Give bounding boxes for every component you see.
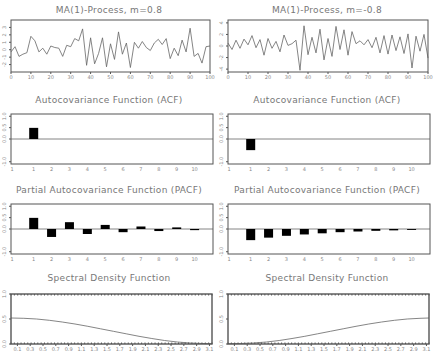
tick-label: 10	[191, 166, 197, 172]
tick-label: -1.0	[218, 157, 224, 167]
tick-label: 0.1	[230, 346, 238, 352]
tick-label: 60	[345, 74, 351, 80]
tick-label: 2	[50, 256, 53, 262]
tick-label: 0.7	[269, 346, 277, 352]
tick-label: 4	[303, 256, 306, 262]
bar	[190, 229, 199, 230]
bar	[65, 222, 74, 229]
tick-label: 1.0	[218, 290, 224, 298]
tick-label: 2	[267, 166, 270, 172]
tick-label: 1.0	[1, 112, 7, 120]
tick-label: 2.7	[180, 346, 188, 352]
tick-label: 70	[147, 74, 153, 80]
acf-right-plot: 112345678910-1.00.00.51.0	[218, 90, 436, 180]
bar	[318, 229, 327, 233]
tick-label: 0.5	[218, 124, 224, 132]
tick-label: 0.9	[65, 346, 73, 352]
tick-label: 2.9	[410, 346, 418, 352]
tick-label: 6	[121, 166, 124, 172]
tick-label: 0.5	[39, 346, 47, 352]
tick-label: 1	[32, 166, 35, 172]
bar	[29, 218, 38, 229]
tick-label: 0.1	[13, 346, 21, 352]
data-line	[228, 26, 428, 71]
tick-label: 5	[104, 166, 107, 172]
tick-label: 2.9	[193, 346, 201, 352]
tick-label: 3	[285, 166, 288, 172]
ts-right-plot: 0102030405060708090100-4-2024	[218, 0, 436, 90]
tick-label: 90	[187, 74, 193, 80]
tick-label: 1	[10, 256, 13, 262]
tick-label: 7	[139, 166, 142, 172]
panel-ts-left: MA(1)-Process, m=0.8 0102030405060708090…	[0, 0, 218, 90]
tick-label: 0.0	[218, 340, 224, 348]
tick-label: -1.0	[1, 157, 7, 167]
tick-label: 0.0	[218, 225, 224, 233]
tick-label: 8	[374, 256, 377, 262]
data-line	[228, 318, 429, 344]
tick-label: 1.9	[129, 346, 137, 352]
tick-label: 1	[249, 166, 252, 172]
tick-label: 1.7	[116, 346, 124, 352]
tick-label: 8	[374, 166, 377, 172]
data-line	[11, 28, 210, 67]
plot-frame	[228, 294, 429, 344]
tick-label: 2.1	[358, 346, 366, 352]
plot-frame	[228, 20, 428, 72]
bar	[389, 229, 398, 230]
tick-label: 20	[265, 74, 271, 80]
tick-label: 9	[175, 256, 178, 262]
tick-label: 0.0	[1, 340, 7, 348]
tick-label: 10	[408, 256, 414, 262]
tick-label: 1	[1, 41, 7, 44]
sdf-right-plot: 0.10.30.50.70.91.11.31.51.71.92.12.32.52…	[218, 265, 436, 359]
tick-label: 6	[338, 166, 341, 172]
tick-label: 0.5	[1, 124, 7, 132]
bar	[172, 227, 181, 229]
tick-label: 4	[86, 256, 89, 262]
panel-acf-right: Autocovariance Function (ACF) 1123456789…	[218, 90, 436, 180]
tick-label: 2.7	[397, 346, 405, 352]
panel-sdf-left: Spectral Density Function 0.10.30.50.70.…	[0, 265, 218, 359]
tick-label: 4	[86, 166, 89, 172]
tick-label: 0.5	[256, 346, 264, 352]
pacf-left-plot: 112345678910-1.00.00.51.0	[0, 180, 218, 270]
tick-label: 0	[226, 74, 229, 80]
tick-label: 10	[191, 256, 197, 262]
tick-label: 4	[303, 166, 306, 172]
tick-label: 1.3	[90, 346, 98, 352]
bar	[47, 229, 56, 237]
sdf-left-plot: 0.10.30.50.70.91.11.31.51.71.92.12.32.52…	[0, 265, 218, 359]
tick-label: 70	[365, 74, 371, 80]
bar	[83, 229, 92, 234]
tick-label: 0	[1, 48, 7, 51]
tick-label: 3	[285, 256, 288, 262]
tick-label: 1.0	[1, 290, 7, 298]
bar	[101, 225, 110, 229]
panel-acf-left: Autocovariance Function (ACF) 1123456789…	[0, 90, 218, 180]
bar	[119, 229, 128, 232]
tick-label: 0	[218, 44, 224, 47]
tick-label: 1.7	[333, 346, 341, 352]
tick-label: 0.9	[282, 346, 290, 352]
tick-label: 6	[121, 256, 124, 262]
tick-label: 100	[423, 74, 433, 80]
tick-label: 0.0	[218, 135, 224, 143]
tick-label: -1.0	[218, 247, 224, 257]
bar	[300, 229, 309, 234]
tick-label: 1.0	[218, 202, 224, 210]
tick-label: 10	[245, 74, 251, 80]
tick-label: -2	[1, 62, 7, 67]
tick-label: 0.5	[218, 214, 224, 222]
tick-label: 2	[267, 256, 270, 262]
data-line	[11, 318, 212, 344]
tick-label: 60	[127, 74, 133, 80]
tick-label: 30	[285, 74, 291, 80]
bar	[407, 229, 416, 230]
tick-label: 2	[218, 33, 224, 36]
tick-label: -1	[1, 55, 7, 60]
tick-label: 1.9	[346, 346, 354, 352]
tick-label: 5	[321, 166, 324, 172]
tick-label: 10	[28, 74, 34, 80]
panel-pacf-right: Partial Autocovariance Function (PACF) 1…	[218, 180, 436, 270]
